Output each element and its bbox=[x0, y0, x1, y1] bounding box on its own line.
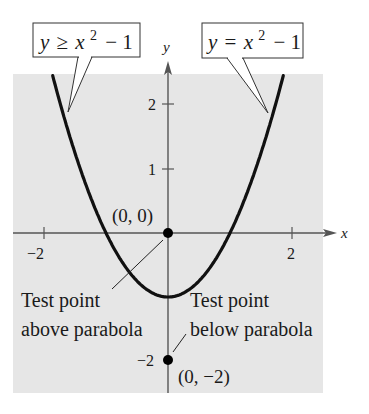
annotation-below-line1: Test point bbox=[190, 289, 270, 312]
y-axis-label: y bbox=[161, 39, 170, 55]
test-point-below bbox=[163, 355, 173, 365]
test-point-origin bbox=[163, 228, 173, 238]
x-axis-label: x bbox=[340, 225, 348, 241]
tick-label-x-2: 2 bbox=[287, 245, 295, 262]
callout-left-y: y bbox=[38, 30, 50, 54]
annotation-above-line2: above parabola bbox=[21, 318, 143, 341]
label-point-origin: (0, 0) bbox=[112, 205, 153, 227]
callout-right-y: y bbox=[206, 30, 218, 54]
annotation-above-line1: Test point bbox=[21, 289, 101, 312]
tick-label-y-neg2: −2 bbox=[137, 352, 154, 369]
tick-label-y-1: 1 bbox=[148, 161, 156, 178]
inequality-graph: x y −2 2 2 1 −2 y ≥ x 2 − 1 bbox=[0, 0, 369, 414]
label-point-below: (0, −2) bbox=[178, 366, 230, 388]
tick-label-x-neg2: −2 bbox=[27, 245, 44, 262]
tick-label-y-2: 2 bbox=[148, 96, 156, 113]
annotation-below-line2: below parabola bbox=[190, 318, 313, 341]
